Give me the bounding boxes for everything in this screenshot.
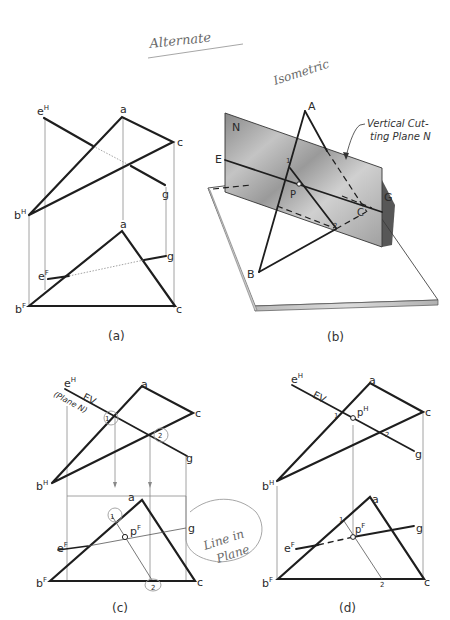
label-c-top: c [195,407,201,420]
arrow-1 [113,482,117,488]
label-P: P [290,189,296,200]
panel-c: Line in Plane eH EV (Plane N) a c g 1 2 … [36,376,262,615]
label-a-front: a [120,218,127,231]
caption-b: (b) [327,330,344,344]
label-g-front: g [167,250,174,263]
label-plane-n: (Plane N) [52,390,89,415]
label-c-top: c [425,406,431,419]
isometric-note: Isometric [271,57,331,89]
triangle-front-view [50,500,195,581]
panel-a: eH a c g bH a eF g bF c (a) [14,103,183,343]
label-g-front: g [416,522,423,535]
label-bF: bF [262,576,273,590]
label-1-front: 1 [339,516,343,524]
label-2: 2 [333,222,337,230]
label-eH: eH [37,104,49,118]
label-pH: pH [357,405,369,418]
panel-d: eH EV 1 pH a c 2 g bH a 1 pF g eF bF 2 c… [262,372,431,615]
label-1-top: 1 [334,412,338,420]
label-g-top: g [415,448,422,461]
callout-leader [346,124,365,157]
label-E: E [215,153,222,166]
label-eF: eF [57,541,68,555]
label-N: N [232,121,240,134]
label-g-top: g [186,452,193,465]
label-bF: bF [15,302,26,316]
panel-b: Vertical Cut- ting Plane N N A E P G C B… [208,100,438,344]
label-eF: eF [38,269,49,283]
label-eH: eH [64,376,76,390]
label-eH: eH [291,372,303,386]
label-a-top: a [369,374,376,387]
callout-line2: ting Plane N [370,131,431,142]
pierce-point-pH [351,416,356,421]
line-eg-top-right [131,166,165,185]
alternate-note: Alternate [148,30,212,52]
label-c-front: c [424,576,430,589]
label-c-top: c [177,136,183,149]
caption-c: (c) [112,601,128,615]
callout-line1: Vertical Cut- [367,118,429,129]
label-bH: bH [14,208,26,222]
label-1-front: 1 [110,513,114,521]
caption-d: (d) [339,601,356,615]
label-bH: bH [36,479,48,493]
label-bH: bH [262,479,274,493]
label-2-top: 2 [385,431,389,439]
label-g-front: g [188,522,195,535]
triangle-top-view [277,383,423,481]
label-A: A [308,100,316,113]
line-eg-front-left [48,276,69,279]
label-G: G [384,191,393,204]
label-c-front: c [197,576,203,589]
line-eg-top-left [44,118,93,146]
label-2-front: 2 [380,581,384,589]
arrow-2 [148,482,152,488]
label-2-top: 2 [158,432,162,440]
handwritten-annotations: Alternate Isometric [148,30,331,89]
triangle-top-view [29,117,173,215]
line-eg-front-hidden [69,260,144,276]
label-a-front: a [372,493,379,506]
label-c-front: c [176,303,182,316]
pierce-point-pF [122,534,127,539]
label-a-top: a [141,378,148,391]
caption-a: (a) [108,329,125,343]
label-1: 1 [286,157,290,165]
descriptive-geometry-figure: Alternate Isometric eH a c g bH a eF g b… [0,0,450,620]
label-B: B [247,268,255,281]
line-eg-front-right [144,256,166,260]
label-a-top: a [120,103,127,116]
label-a-front: a [128,491,135,504]
label-pF: pF [355,522,365,535]
label-bF: bF [36,576,47,590]
pierce-point-pF [351,535,356,540]
line-eg-top-hidden [93,146,131,166]
label-C: C [357,207,364,218]
label-pF: pF [130,524,141,538]
label-eF: eF [284,541,295,555]
label-2-front: 2 [151,584,155,592]
label-1-top: 1 [105,415,109,423]
label-g-top: g [162,188,169,201]
pierce-point-P [297,182,301,186]
